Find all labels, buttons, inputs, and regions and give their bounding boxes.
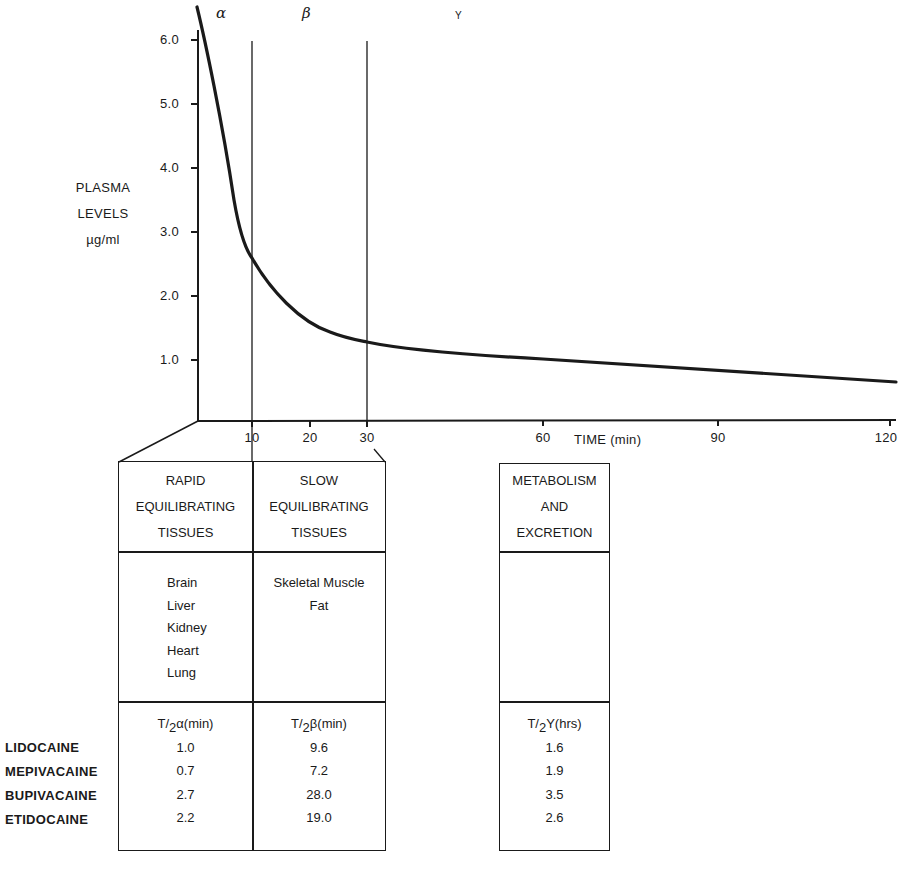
y-tick-label: 2.0 xyxy=(160,288,179,303)
rapid-header: RAPID EQUILIBRATING TISSUES xyxy=(119,468,252,546)
halflife-value: 2.6 xyxy=(545,806,563,830)
phase-label-beta: β xyxy=(302,4,311,22)
halflife-value: 19.0 xyxy=(306,806,331,830)
x-tick-label: 60 xyxy=(528,430,558,445)
connector-left xyxy=(119,421,198,462)
halflife-value: 2.7 xyxy=(176,783,194,807)
y-axis-title-line1: PLASMA xyxy=(68,180,138,195)
halflife-value: 28.0 xyxy=(306,783,331,807)
slow-halflife-column: T/2β(min) 9.6 7.2 28.0 19.0 xyxy=(253,712,385,830)
drug-label-lidocaine: LIDOCAINE xyxy=(5,740,79,755)
metabolism-halflife-column: T/2Y(hrs) 1.6 1.9 3.5 2.6 xyxy=(499,712,610,830)
tissue-table-row-line xyxy=(118,701,386,703)
tissue-item: Fat xyxy=(310,595,329,618)
y-tick-label: 6.0 xyxy=(160,32,179,47)
tissue-item: Liver xyxy=(167,595,195,618)
x-tick-label: 20 xyxy=(295,430,325,445)
y-tick-label: 3.0 xyxy=(160,224,179,239)
y-ticks xyxy=(191,40,198,360)
plasma-curve xyxy=(197,7,896,382)
y-tick-label: 1.0 xyxy=(160,352,179,367)
drug-label-etidocaine: ETIDOCAINE xyxy=(5,812,88,827)
halflife-beta-label: T/2β(min) xyxy=(291,712,347,736)
halflife-value: 3.5 xyxy=(545,783,563,807)
phase-label-alpha: α xyxy=(216,4,226,22)
tissue-item: Heart xyxy=(167,640,199,663)
slow-header: SLOW EQUILIBRATING TISSUES xyxy=(253,468,385,546)
tissue-item: Brain xyxy=(167,572,197,595)
tissue-item: Lung xyxy=(167,662,196,685)
tissue-item: Kidney xyxy=(167,617,207,640)
x-tick-label: 30 xyxy=(352,430,382,445)
halflife-gamma-label: T/2Y(hrs) xyxy=(527,712,581,736)
halflife-value: 1.6 xyxy=(545,736,563,760)
drug-label-mepivacaine: MEPIVACAINE xyxy=(5,764,98,779)
rapid-tissues-list: Brain Liver Kidney Heart Lung xyxy=(119,572,252,685)
halflife-value: 1.0 xyxy=(176,736,194,760)
slow-tissues-list: Skeletal Muscle Fat xyxy=(253,572,385,617)
halflife-value: 7.2 xyxy=(310,759,328,783)
phase-label-gamma: Y xyxy=(455,10,462,21)
x-tick-label: 10 xyxy=(237,430,267,445)
halflife-value: 2.2 xyxy=(176,806,194,830)
tissue-item: Skeletal Muscle xyxy=(273,572,364,595)
rapid-halflife-column: T/2α(min) 1.0 0.7 2.7 2.2 xyxy=(119,712,252,830)
y-axis-title-line2: LEVELS xyxy=(68,206,138,221)
halflife-alpha-label: T/2α(min) xyxy=(158,712,214,736)
y-tick-label: 4.0 xyxy=(160,160,179,175)
tissue-table-row-line xyxy=(118,551,386,553)
x-tick-label: 90 xyxy=(703,430,733,445)
x-tick-label: 120 xyxy=(868,430,904,445)
y-tick-label: 5.0 xyxy=(160,96,179,111)
halflife-value: 9.6 xyxy=(310,736,328,760)
metabolism-table-row-line xyxy=(499,551,610,553)
metabolism-table-row-line xyxy=(499,701,610,703)
x-axis-title: TIME (min) xyxy=(574,432,641,447)
halflife-value: 1.9 xyxy=(545,759,563,783)
drug-label-bupivacaine: BUPIVACAINE xyxy=(5,788,97,803)
y-axis-title-line3: µg/ml xyxy=(68,232,138,247)
x-axis xyxy=(198,420,896,421)
halflife-value: 0.7 xyxy=(176,759,194,783)
metabolism-header: METABOLISM AND EXCRETION xyxy=(499,468,610,546)
